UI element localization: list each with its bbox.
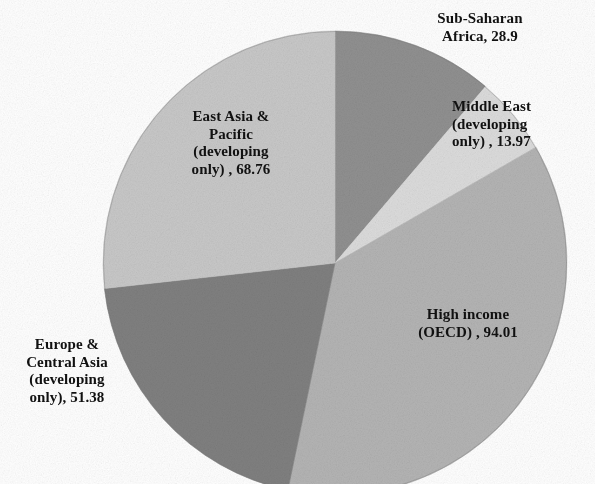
pie-chart-canvas (0, 0, 595, 484)
pie-chart-figure: Sub-Saharan Africa, 28.9 Middle East (de… (0, 0, 595, 484)
slice-label-high-income: High income (OECD) , 94.01 (388, 306, 548, 341)
slice-label-europe-central-asia: Europe & Central Asia (developing only),… (2, 336, 132, 407)
slice-label-east-asia-pacific: East Asia & Pacific (developing only) , … (152, 108, 310, 179)
slice-label-middle-east: Middle East (developing only) , 13.97 (452, 98, 595, 151)
slice-label-sub-saharan-africa: Sub-Saharan Africa, 28.9 (390, 10, 570, 45)
